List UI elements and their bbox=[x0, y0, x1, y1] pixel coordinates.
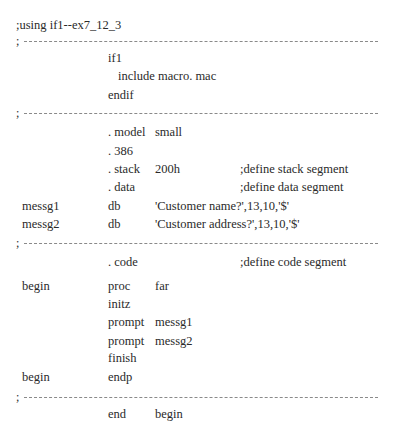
code-line: . code ;define code segment bbox=[0, 253, 395, 271]
label: messg1 bbox=[22, 197, 60, 215]
code-line: prompt messg1 bbox=[0, 313, 395, 331]
code-line: messg2 db 'Customer address?',13,10,'$' bbox=[0, 215, 395, 233]
divider: ; bbox=[16, 32, 378, 50]
divider-dash bbox=[24, 397, 378, 398]
divider-semicolon: ; bbox=[16, 234, 19, 252]
directive: endif bbox=[108, 86, 134, 104]
code-line: end begin bbox=[0, 405, 395, 423]
operand: messg1 bbox=[155, 313, 193, 331]
comment: ;define code segment bbox=[240, 253, 346, 271]
code-line: include macro. mac bbox=[0, 67, 395, 85]
operand: 200h bbox=[155, 160, 180, 178]
code-line: . stack 200h ;define stack segment bbox=[0, 160, 395, 178]
operand: 'Customer name?',13,10,'$' bbox=[155, 197, 289, 215]
directive: . 386 bbox=[108, 142, 133, 160]
code-line: . 386 bbox=[0, 142, 395, 160]
operand: 'Customer address?',13,10,'$' bbox=[155, 215, 299, 233]
divider-dash bbox=[24, 243, 378, 244]
instruction: db bbox=[108, 197, 121, 215]
comment: ;define stack segment bbox=[240, 160, 348, 178]
divider-semicolon: ; bbox=[16, 104, 19, 122]
divider-semicolon: ; bbox=[16, 32, 19, 50]
code-line: if1 bbox=[0, 49, 395, 67]
operand: begin bbox=[155, 405, 183, 423]
directive: . model bbox=[108, 123, 146, 141]
code-line: finish bbox=[0, 349, 395, 367]
instruction: proc bbox=[108, 277, 130, 295]
instruction: prompt bbox=[108, 332, 144, 350]
divider-semicolon: ; bbox=[16, 388, 19, 406]
divider: ; bbox=[16, 388, 378, 406]
code-line: prompt messg2 bbox=[0, 332, 395, 350]
operand: messg2 bbox=[155, 332, 193, 350]
instruction: prompt bbox=[108, 313, 144, 331]
code-line: . model small bbox=[0, 123, 395, 141]
code-line: messg1 db 'Customer name?',13,10,'$' bbox=[0, 197, 395, 215]
directive: . stack bbox=[108, 160, 140, 178]
code-line: begin endp bbox=[0, 368, 395, 386]
directive: . data bbox=[108, 178, 135, 196]
comment: ;define data segment bbox=[240, 178, 343, 196]
code-line: . data ;define data segment bbox=[0, 178, 395, 196]
label: messg2 bbox=[22, 215, 60, 233]
directive: if1 bbox=[108, 49, 122, 67]
divider: ; bbox=[16, 104, 378, 122]
instruction: endp bbox=[108, 368, 132, 386]
instruction: db bbox=[108, 215, 121, 233]
divider-dash bbox=[24, 113, 378, 114]
operand: far bbox=[155, 277, 169, 295]
operand: small bbox=[155, 123, 182, 141]
include-statement: include macro. mac bbox=[118, 67, 216, 85]
label: begin bbox=[22, 368, 50, 386]
instruction: initz bbox=[108, 295, 130, 313]
divider: ; bbox=[16, 234, 378, 252]
code-line: initz bbox=[0, 295, 395, 313]
instruction: finish bbox=[108, 349, 136, 367]
directive: . code bbox=[108, 253, 138, 271]
code-line: endif bbox=[0, 86, 395, 104]
code-line: begin proc far bbox=[0, 277, 395, 295]
divider-dash bbox=[24, 41, 378, 42]
directive: end bbox=[108, 405, 126, 423]
label: begin bbox=[22, 277, 50, 295]
